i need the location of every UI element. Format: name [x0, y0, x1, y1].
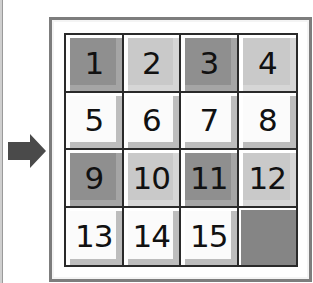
puzzle-tile: 6: [128, 96, 180, 149]
puzzle-tile: 11: [185, 153, 237, 206]
grid-cell[interactable]: 9: [66, 150, 124, 208]
tile-number: 14: [133, 218, 170, 254]
puzzle-tile: 5: [70, 96, 122, 149]
grid-cell[interactable]: 10: [124, 150, 182, 208]
tile-number: 6: [142, 102, 161, 138]
tile-number: 3: [199, 45, 218, 81]
tile-number: 12: [249, 160, 286, 196]
grid-cell[interactable]: 7: [181, 93, 239, 151]
grid-cell[interactable]: 12: [239, 150, 297, 208]
empty-tile: [241, 210, 297, 266]
tile-number: 11: [190, 160, 227, 196]
tile-number: 13: [75, 218, 112, 254]
grid-cell[interactable]: 13: [66, 208, 124, 266]
puzzle-grid: 1 2 3 4 5 6 7 8 9 10 11 12 13 14 15: [64, 33, 298, 267]
puzzle-tile: 3: [185, 38, 237, 91]
tile-number: 8: [258, 102, 277, 138]
puzzle-tile: 7: [185, 96, 237, 149]
grid-cell[interactable]: 2: [124, 35, 182, 93]
puzzle-tile: 4: [243, 38, 297, 91]
arrow-right-icon: [8, 134, 46, 168]
puzzle-tile: 10: [128, 153, 180, 206]
left-divider-line: [0, 0, 3, 283]
puzzle-tile: 9: [70, 153, 122, 206]
puzzle-tile: 14: [128, 211, 180, 266]
grid-cell[interactable]: 14: [124, 208, 182, 266]
puzzle-tile: 1: [70, 38, 122, 91]
tile-number: 5: [84, 102, 103, 138]
puzzle-tile: 15: [185, 211, 237, 266]
empty-slot[interactable]: [239, 208, 297, 266]
tile-number: 15: [190, 218, 227, 254]
grid-cell[interactable]: 15: [181, 208, 239, 266]
tile-number: 2: [142, 45, 161, 81]
grid-cell[interactable]: 5: [66, 93, 124, 151]
puzzle-tile: 13: [70, 211, 122, 266]
grid-cell[interactable]: 3: [181, 35, 239, 93]
puzzle-tile: 8: [243, 96, 297, 149]
grid-cell[interactable]: 1: [66, 35, 124, 93]
grid-cell[interactable]: 8: [239, 93, 297, 151]
grid-cell[interactable]: 6: [124, 93, 182, 151]
tile-number: 1: [84, 45, 103, 81]
tile-number: 4: [258, 45, 277, 81]
grid-cell[interactable]: 4: [239, 35, 297, 93]
tile-number: 10: [133, 160, 170, 196]
puzzle-tile: 12: [243, 153, 297, 206]
tile-number: 7: [199, 102, 218, 138]
puzzle-tile: 2: [128, 38, 180, 91]
tile-number: 9: [84, 160, 103, 196]
grid-cell[interactable]: 11: [181, 150, 239, 208]
